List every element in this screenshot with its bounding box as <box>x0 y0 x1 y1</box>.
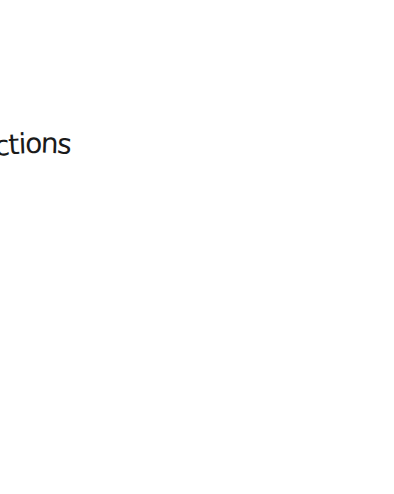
page-title-char: s <box>56 130 73 159</box>
page-canvas: My Overall Feelings and Reflections <box>0 0 394 494</box>
page-title: My Overall Feelings and Reflections <box>0 0 394 494</box>
